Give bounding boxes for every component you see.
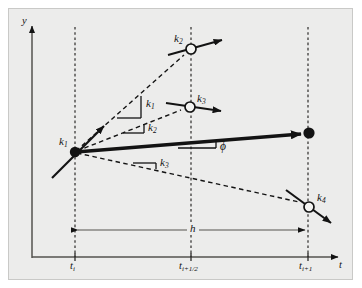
- slope-label-k2-sub: 2: [153, 126, 157, 135]
- y-axis-label: y: [22, 16, 27, 27]
- x-tick-label-ti-plus-1-sub: i+1: [302, 265, 312, 273]
- result-slope-arrow: [76, 134, 301, 152]
- node-label-k1: k1: [59, 136, 68, 149]
- node-k2-open-circle: [186, 44, 196, 54]
- x-tick-label-ti-half: ti+1/2: [179, 261, 198, 273]
- ray-k3-to-k4: [77, 153, 299, 202]
- slope-label-k2: k2: [148, 122, 157, 135]
- node-markers: [70, 44, 315, 212]
- node-k3-open-circle: [185, 102, 195, 112]
- node-endpoint-filled-dot: [303, 127, 314, 138]
- node-label-k4-sub: 4: [322, 196, 326, 205]
- slope-rays-group: [76, 55, 299, 202]
- slope-label-k3-sub: 3: [165, 161, 169, 170]
- node-label-k1-sub: 1: [64, 140, 68, 149]
- node-label-k2: k2: [174, 33, 183, 46]
- step-size-label-h: h: [187, 223, 199, 234]
- x-tick-label-ti: ti: [70, 261, 75, 273]
- slope-triangle-k3: [133, 163, 156, 169]
- slope-label-k1: k1: [146, 98, 155, 111]
- x-tick-label-ti-half-sub: i+1/2: [182, 265, 198, 273]
- node-label-k2-sub: 2: [179, 37, 183, 46]
- slope-triangle-k1: [117, 96, 141, 118]
- node-k4-open-circle: [304, 202, 314, 212]
- node-label-k4: k4: [317, 192, 326, 205]
- slope-label-k3: k3: [160, 157, 169, 170]
- slope-label-k1-sub: 1: [151, 102, 155, 111]
- slope-triangle-k2: [123, 124, 144, 133]
- x-tick-label-ti-plus-1: ti+1: [299, 261, 312, 273]
- node-k1-filled-dot: [70, 147, 80, 157]
- node-label-k3-sub: 3: [202, 97, 206, 106]
- x-axis-label: t: [339, 260, 342, 271]
- angle-label-phi: ϕ: [220, 141, 226, 153]
- node-label-k3: k3: [197, 93, 206, 106]
- figure-root: y t ti ti+1/2 ti+1 k1 k2 k3 k4 k1 k2 k3 …: [0, 0, 362, 288]
- x-tick-label-ti-sub: i: [73, 265, 75, 273]
